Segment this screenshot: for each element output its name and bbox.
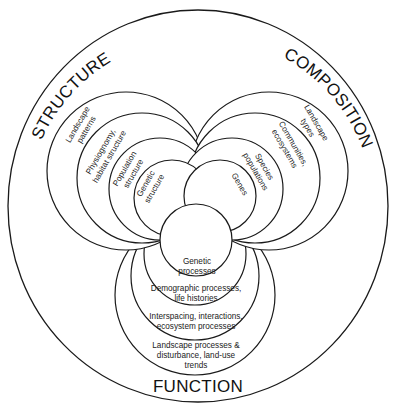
svg-text:Landscape processes &: Landscape processes & [152,341,240,350]
svg-text:processes: processes [178,267,215,276]
svg-text:Demographic processes,: Demographic processes, [151,284,242,293]
biodiversity-hierarchy-diagram: STRUCTURE COMPOSITION FUNCTION Landscape… [0,0,393,411]
function-heading: FUNCTION [153,377,243,396]
svg-text:disturbance, land-use: disturbance, land-use [157,351,236,360]
svg-text:ecosystem processes: ecosystem processes [157,322,236,331]
svg-text:Interspacing, interactions,: Interspacing, interactions, [149,312,242,321]
function-label-interspacing: Interspacing, interactions, ecosystem pr… [149,312,242,331]
svg-text:trends: trends [185,361,208,370]
svg-text:life histories: life histories [174,294,217,303]
function-label-genetic: Genetic processes [178,257,215,276]
svg-text:Genetic: Genetic [183,257,211,266]
